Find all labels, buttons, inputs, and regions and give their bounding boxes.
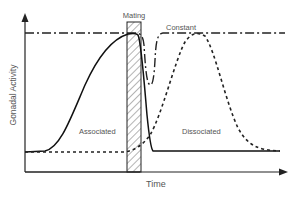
constant-curve [25, 33, 285, 85]
dissociated-label: Dissociated [182, 127, 221, 136]
mating-label: Mating [123, 11, 146, 20]
y-axis-arrow-icon [22, 13, 29, 22]
x-axis-arrow-icon [279, 169, 288, 176]
constant-label: Constant [166, 23, 197, 32]
y-axis-label: Gonadal Activity [8, 64, 18, 126]
gonadal-activity-diagram: Mating Constant Associated Dissociated T… [0, 0, 294, 197]
associated-curve [25, 33, 280, 152]
associated-label: Associated [79, 127, 116, 136]
x-axis-label: Time [146, 179, 166, 189]
